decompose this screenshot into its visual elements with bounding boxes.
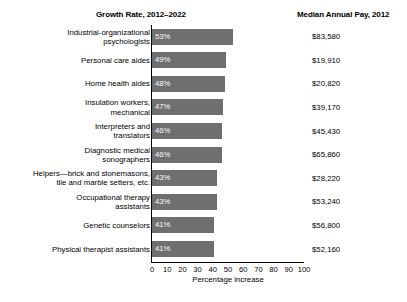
row-category-label: Helpers—brick and stonemasons,tile and m… [5, 167, 150, 191]
row-category-label-line: Helpers—brick and stonemasons, [33, 169, 150, 178]
bar-track: 43% [152, 190, 304, 214]
row-category-label: Genetic counselors [5, 214, 150, 238]
row-category-label: Interpreters andtranslators [5, 119, 150, 143]
chart-row: Home health aides48%$20,820 [0, 72, 407, 96]
row-median-pay-value: $19,910 [312, 49, 396, 73]
bar-chart-figure: Growth Rate, 2012–2022 Median Annual Pay… [0, 0, 407, 302]
chart-row: Physical therapist assistants41%$52,160 [0, 237, 407, 261]
row-category-label: Diagnostic medicalsonographers [5, 143, 150, 167]
row-category-label: Physical therapist assistants [5, 237, 150, 261]
bar-track: 47% [152, 96, 304, 120]
row-median-pay-value: $20,820 [312, 72, 396, 96]
x-axis-tick-label: 10 [163, 264, 171, 275]
row-category-label-line: translators [114, 131, 150, 140]
row-median-pay-value: $53,240 [312, 190, 396, 214]
row-median-pay-value: $65,860 [312, 143, 396, 167]
x-axis-tick-label: 100 [298, 264, 311, 275]
chart-row: Insulation workers,mechanical47%$39,170 [0, 96, 407, 120]
bar-value-label: 46% [155, 147, 170, 163]
row-category-label-line: Genetic counselors [83, 221, 150, 230]
bar-value-label: 46% [155, 123, 170, 139]
bar-value-label: 41% [155, 217, 170, 233]
chart-row: Interpreters andtranslators46%$45,430 [0, 119, 407, 143]
growth-rate-column-header: Growth Rate, 2012–2022 [96, 10, 186, 19]
y-axis-line [151, 25, 152, 262]
x-axis-tick-label: 40 [209, 264, 217, 275]
x-axis-tick-label: 70 [254, 264, 262, 275]
x-axis-tick-label: 50 [224, 264, 232, 275]
x-axis-title: Percentage increase [152, 275, 304, 284]
x-axis-tick-label: 80 [269, 264, 277, 275]
bar-value-label: 43% [155, 194, 170, 210]
bar-value-label: 53% [155, 29, 170, 45]
row-median-pay-value: $39,170 [312, 96, 396, 120]
row-median-pay-value: $28,220 [312, 167, 396, 191]
bar-track: 41% [152, 214, 304, 238]
row-category-label-line: Interpreters and [95, 122, 150, 131]
row-median-pay-value: $45,430 [312, 119, 396, 143]
bar-track: 48% [152, 72, 304, 96]
x-axis-tick-label: 90 [285, 264, 293, 275]
row-median-pay-value: $56,800 [312, 214, 396, 238]
row-category-label: Insulation workers,mechanical [5, 96, 150, 120]
x-axis-tick-label: 30 [193, 264, 201, 275]
x-axis-tick-label: 60 [239, 264, 247, 275]
x-axis-tick-label: 0 [150, 264, 154, 275]
bar-value-label: 43% [155, 170, 170, 186]
chart-row: Occupational therapyassistants43%$53,240 [0, 190, 407, 214]
chart-row: Genetic counselors41%$56,800 [0, 214, 407, 238]
row-category-label: Personal care aides [5, 49, 150, 73]
x-axis-line [151, 262, 304, 263]
bar-value-label: 47% [155, 99, 170, 115]
row-category-label-line: assistants [115, 202, 150, 211]
bar-track: 49% [152, 49, 304, 73]
bar-value-label: 49% [155, 52, 170, 68]
row-category-label-line: Occupational therapy [76, 193, 150, 202]
chart-row: Industrial-organizationalpsychologists53… [0, 25, 407, 49]
row-category-label-line: mechanical [111, 108, 150, 117]
bar-track: 43% [152, 167, 304, 191]
median-pay-column-header: Median Annual Pay, 2012 [297, 10, 389, 19]
bar-value-label: 41% [155, 241, 170, 257]
chart-row: Diagnostic medicalsonographers46%$65,860 [0, 143, 407, 167]
row-category-label-line: tile and marble setters, etc. [56, 178, 150, 187]
row-category-label: Occupational therapyassistants [5, 190, 150, 214]
chart-row: Helpers—brick and stonemasons,tile and m… [0, 167, 407, 191]
row-median-pay-value: $83,580 [312, 25, 396, 49]
x-axis-tick-label: 20 [178, 264, 186, 275]
row-category-label-line: Personal care aides [81, 56, 150, 65]
bar-track: 53% [152, 25, 304, 49]
bar-track: 46% [152, 119, 304, 143]
row-category-label-line: sonographers [102, 155, 150, 164]
bar-track: 46% [152, 143, 304, 167]
row-category-label-line: psychologists [103, 37, 150, 46]
row-category-label-line: Home health aides [85, 79, 150, 88]
bar-track: 41% [152, 237, 304, 261]
row-category-label-line: Insulation workers, [85, 98, 150, 107]
row-median-pay-value: $52,160 [312, 237, 396, 261]
chart-row: Personal care aides49%$19,910 [0, 49, 407, 73]
row-category-label-line: Physical therapist assistants [52, 245, 150, 254]
row-category-label-line: Diagnostic medical [85, 146, 150, 155]
row-category-label: Industrial-organizationalpsychologists [5, 25, 150, 49]
chart-rows: Industrial-organizationalpsychologists53… [0, 25, 407, 261]
row-category-label-line: Industrial-organizational [67, 28, 150, 37]
bar-value-label: 48% [155, 76, 170, 92]
row-category-label: Home health aides [5, 72, 150, 96]
